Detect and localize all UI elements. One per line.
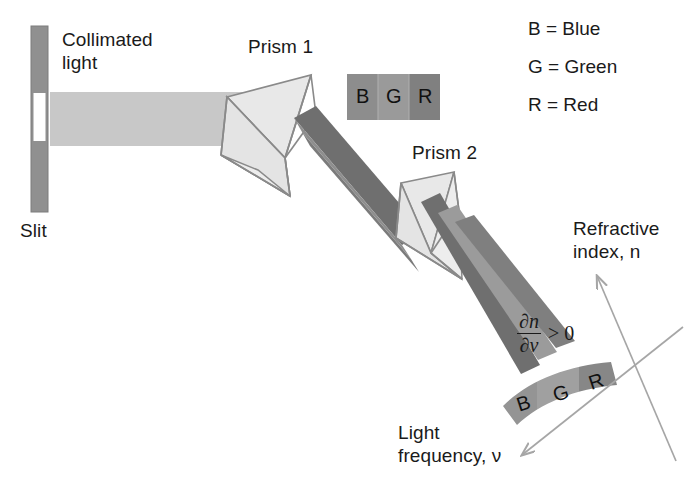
refractive-index-label: Refractive index, n <box>573 217 660 263</box>
bgr-flat-letter-r: R <box>418 85 432 108</box>
legend-item-blue: B = Blue <box>528 18 617 40</box>
prism-2-label: Prism 2 <box>412 141 477 164</box>
dispersion-condition-formula: ∂n ∂ν > 0 <box>516 311 574 356</box>
formula-relation: > 0 <box>548 322 574 345</box>
collimated-light-label: Collimated light <box>62 28 153 74</box>
partial-derivative-fraction: ∂n ∂ν <box>516 311 542 356</box>
formula-numerator: ∂n <box>516 311 542 333</box>
collimated-beam <box>50 92 242 146</box>
legend-item-green: G = Green <box>528 56 617 78</box>
slit-label: Slit <box>20 219 47 242</box>
bgr-flat-letter-g: G <box>386 85 402 108</box>
refracted-beam-green <box>294 118 411 259</box>
light-frequency-label: Light frequency, ν <box>398 421 501 467</box>
prism-dispersion-figure: Slit Collimated light Prism 1 Prism 2 Re… <box>0 0 693 481</box>
color-key-legend: B = Blue G = Green R = Red <box>528 18 617 132</box>
formula-denominator: ∂ν <box>517 333 542 356</box>
prism-1-label: Prism 1 <box>248 35 313 58</box>
legend-item-red: R = Red <box>528 94 617 116</box>
bgr-curved-segment-r <box>579 355 627 435</box>
slit-gap <box>34 93 46 141</box>
slit-aperture <box>31 26 48 212</box>
bgr-flat-letter-b: B <box>356 85 369 108</box>
